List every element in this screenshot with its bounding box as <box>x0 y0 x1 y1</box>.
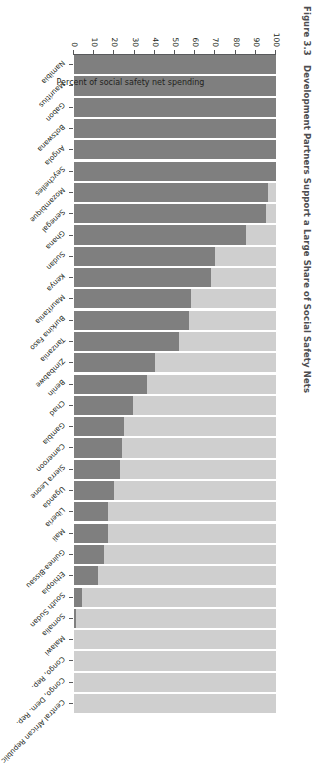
bar-segment-development-partners <box>215 247 276 266</box>
bar-column[interactable] <box>74 183 276 202</box>
value-axis-tick-label: 80 <box>231 37 240 47</box>
bar-column[interactable] <box>74 460 276 479</box>
category-axis-tick <box>69 128 73 129</box>
bar-column[interactable] <box>74 502 276 521</box>
category-label-cell: Zimbabwe <box>8 352 68 373</box>
category-tick-wrap <box>69 523 73 544</box>
category-axis-tick <box>69 149 73 150</box>
category-tick-wrap <box>69 416 73 437</box>
bar-segment-development-partners <box>120 460 276 479</box>
bar-segment-development-partners <box>179 332 276 351</box>
bar-column[interactable] <box>74 566 276 585</box>
bar-column[interactable] <box>74 204 276 223</box>
category-tick-wrap <box>69 139 73 160</box>
bar-column[interactable] <box>74 353 276 372</box>
category-axis-tick <box>69 277 73 278</box>
category-label-cell: Guinea-Bissau <box>8 544 68 565</box>
category-axis-tick <box>69 256 73 257</box>
bar-column[interactable] <box>74 225 276 244</box>
bar-column[interactable] <box>74 396 276 415</box>
bar-segment-development-partners <box>191 289 276 308</box>
category-axis-tick <box>69 660 73 661</box>
bar-segment-government <box>74 502 108 521</box>
bar-segment-government <box>74 247 215 266</box>
bar-segment-government <box>74 353 155 372</box>
category-label-cell: Senegal <box>8 203 68 224</box>
category-axis-tick <box>69 469 73 470</box>
value-axis-tick-label: 60 <box>191 37 200 47</box>
category-tick-wrap <box>69 480 73 501</box>
bar-column[interactable] <box>74 630 276 649</box>
category-axis-tick <box>69 511 73 512</box>
category-axis-tick <box>69 235 73 236</box>
bar-column[interactable] <box>74 438 276 457</box>
bar-column[interactable] <box>74 98 276 117</box>
bar-column[interactable] <box>74 119 276 138</box>
category-tick-wrap <box>69 267 73 288</box>
bar-column[interactable] <box>74 651 276 670</box>
bar-segment-government <box>74 566 98 585</box>
category-axis-tick <box>69 171 73 172</box>
category-label-cell: Cameroon <box>8 437 68 458</box>
category-axis-labels: NamibiaMauritiusGabonBotswanaAngolaSeych… <box>8 54 68 714</box>
bar-column[interactable] <box>74 673 276 692</box>
bar-column[interactable] <box>74 332 276 351</box>
bar-segment-government <box>74 183 268 202</box>
category-axis-tick <box>69 362 73 363</box>
bar-column[interactable] <box>74 247 276 266</box>
category-axis-tick <box>69 213 73 214</box>
category-label-cell: Ethiopia <box>8 565 68 586</box>
category-axis-tick <box>69 64 73 65</box>
bar-column[interactable] <box>74 55 276 74</box>
bar-segment-development-partners <box>211 268 276 287</box>
bar-segment-development-partners <box>189 311 276 330</box>
category-axis-tick <box>69 703 73 704</box>
category-axis-tick <box>69 682 73 683</box>
value-axis-tick-label: 0 <box>70 42 79 47</box>
category-label-cell: Angola <box>8 139 68 160</box>
bar-segment-government <box>74 140 276 159</box>
bar-column[interactable] <box>74 524 276 543</box>
category-axis-tick <box>69 447 73 448</box>
bar-segment-development-partners <box>147 375 276 394</box>
bar-column[interactable] <box>74 311 276 330</box>
bar-column[interactable] <box>74 417 276 436</box>
category-label-cell: Mauritania <box>8 288 68 309</box>
category-axis-tick <box>69 533 73 534</box>
figure-title: Figure 3.3 Development Partners Support … <box>302 6 312 393</box>
category-axis-tick <box>69 298 73 299</box>
bar-segment-government <box>74 204 266 223</box>
category-tick-wrap <box>69 373 73 394</box>
bar-segment-government <box>74 311 189 330</box>
bar-column[interactable] <box>74 588 276 607</box>
category-label-cell: Seychelles <box>8 160 68 181</box>
value-axis-tick-label: 100 <box>272 33 281 47</box>
bar-column[interactable] <box>74 162 276 181</box>
category-label-cell: Congo, Rep. <box>8 650 68 671</box>
value-axis-ticks: 1009080706050403020100 <box>74 44 276 54</box>
category-tick-wrap <box>69 608 73 629</box>
category-label-cell: Uganda <box>8 480 68 501</box>
category-tick-wrap <box>69 352 73 373</box>
category-tick-wrap <box>69 203 73 224</box>
bar-segment-development-partners <box>82 588 276 607</box>
category-tick-wrap <box>69 544 73 565</box>
category-axis-tick <box>69 618 73 619</box>
bar-column[interactable] <box>74 481 276 500</box>
category-axis: NamibiaMauritiusGabonBotswanaAngolaSeych… <box>3 54 73 714</box>
category-label-cell: Malawi <box>8 629 68 650</box>
bar-column[interactable] <box>74 609 276 628</box>
bar-segment-development-partners <box>74 673 276 692</box>
bar-column[interactable] <box>74 694 276 713</box>
bar-segment-government <box>74 609 76 628</box>
bar-column[interactable] <box>74 140 276 159</box>
bar-column[interactable] <box>74 289 276 308</box>
bar-segment-government <box>74 375 147 394</box>
bar-segment-government <box>74 481 114 500</box>
category-label-cell: South Sudan <box>8 586 68 607</box>
bar-column[interactable] <box>74 375 276 394</box>
bar-column[interactable] <box>74 268 276 287</box>
bar-segment-government <box>74 417 125 436</box>
bar-column[interactable] <box>74 545 276 564</box>
